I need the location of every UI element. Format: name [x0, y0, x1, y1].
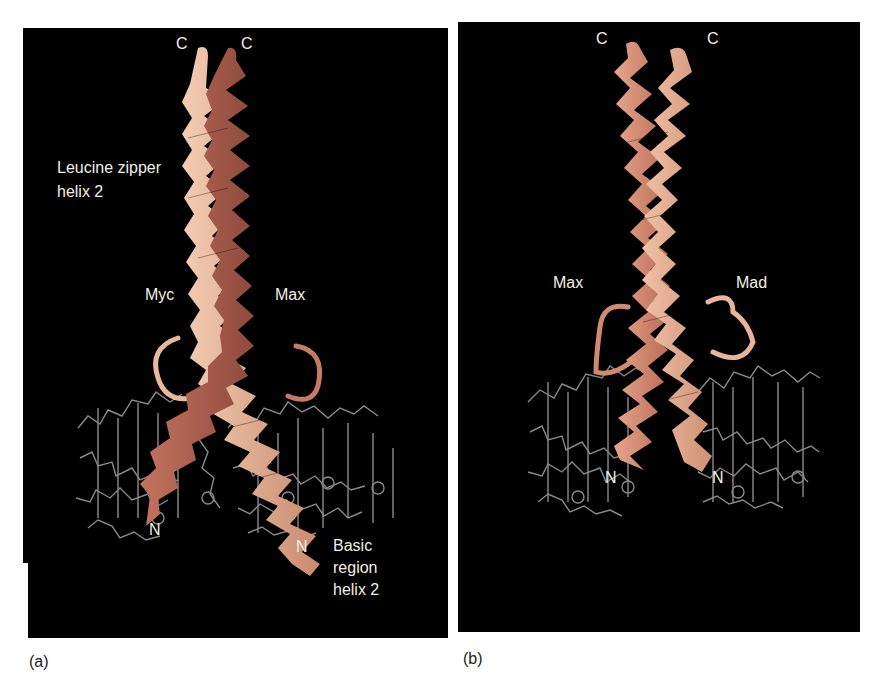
- n-terminus-label-myc: N: [296, 537, 308, 556]
- myc-protein-label: Myc: [145, 285, 174, 304]
- panel-a-caption: (a): [29, 653, 49, 671]
- n-terminus-label-mad: N: [712, 468, 724, 487]
- mad-protein-label: Mad: [736, 273, 767, 292]
- n-terminus-label-max: N: [149, 520, 161, 539]
- c-terminus-label-max: C: [241, 34, 253, 53]
- myc-max-dna-ribbon-model: [28, 28, 448, 638]
- n-terminus-label-max: N: [605, 468, 617, 487]
- panel-b-max-mad-structure: C C Max Mad N N: [458, 22, 860, 632]
- c-terminus-label-myc: C: [176, 34, 188, 53]
- panel-b-caption: (b): [463, 650, 483, 668]
- c-terminus-label-mad: C: [707, 29, 719, 48]
- max-mad-dna-ribbon-model: [458, 22, 860, 632]
- panel-a-myc-max-structure: C C Leucine zipper helix 2 Myc Max N N B…: [28, 28, 448, 638]
- c-terminus-label-max: C: [596, 29, 608, 48]
- basic-region-label-line1: Basic: [333, 536, 372, 555]
- max-protein-label: Max: [553, 273, 583, 292]
- leucine-zipper-label-line1: Leucine zipper: [57, 158, 161, 177]
- leucine-zipper-label-line2: helix 2: [57, 182, 103, 201]
- dna-stick-model: [528, 366, 820, 516]
- max-protein-label: Max: [275, 285, 305, 304]
- basic-region-label-line3: helix 2: [333, 580, 379, 599]
- basic-region-label-line2: region: [333, 558, 377, 577]
